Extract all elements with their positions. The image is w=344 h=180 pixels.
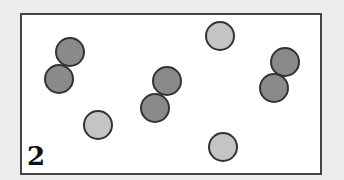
dark-circle <box>140 93 170 123</box>
light-circle <box>83 110 113 140</box>
dark-circle <box>55 37 85 67</box>
light-circle <box>205 21 235 51</box>
dark-circle <box>44 64 74 94</box>
panel-label: 2 <box>27 143 45 169</box>
dark-circle <box>259 73 289 103</box>
dark-circle <box>152 66 182 96</box>
light-circle <box>208 132 238 162</box>
